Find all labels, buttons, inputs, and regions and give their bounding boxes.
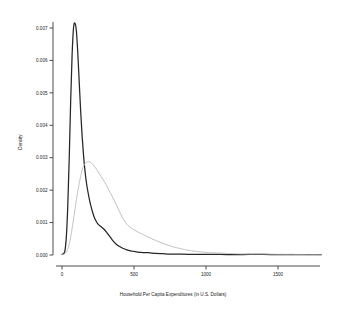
x-tick-label: 1500 <box>273 272 284 277</box>
x-tick-label: 0 <box>61 272 64 277</box>
axis-titles: Household Per Capita Expenditures (in U.… <box>18 134 227 297</box>
y-tick-label: 0.005 <box>36 91 48 96</box>
y-axis: 0.0000.0010.0020.0030.0040.0050.0060.007 <box>36 22 53 258</box>
y-tick-label: 0.007 <box>36 26 48 31</box>
x-axis: 050010001500 <box>56 266 320 277</box>
y-tick-label: 0.001 <box>36 220 48 225</box>
density-curve-dotted-density <box>62 162 321 255</box>
density-curves <box>62 23 321 255</box>
x-axis-title: Household Per Capita Expenditures (in U.… <box>120 292 227 297</box>
y-tick-label: 0.004 <box>36 123 48 128</box>
y-tick-label: 0.006 <box>36 58 48 63</box>
y-tick-label: 0.002 <box>36 188 48 193</box>
x-tick-label: 500 <box>130 272 138 277</box>
x-tick-label: 1000 <box>201 272 212 277</box>
y-tick-label: 0.003 <box>36 155 48 160</box>
density-curve-solid-density <box>62 23 321 255</box>
y-tick-label: 0.000 <box>36 253 48 258</box>
density-plot-figure: 0.0000.0010.0020.0030.0040.0050.0060.007… <box>0 0 338 314</box>
chart-canvas: 0.0000.0010.0020.0030.0040.0050.0060.007… <box>0 0 338 314</box>
y-axis-title: Density <box>18 134 23 150</box>
